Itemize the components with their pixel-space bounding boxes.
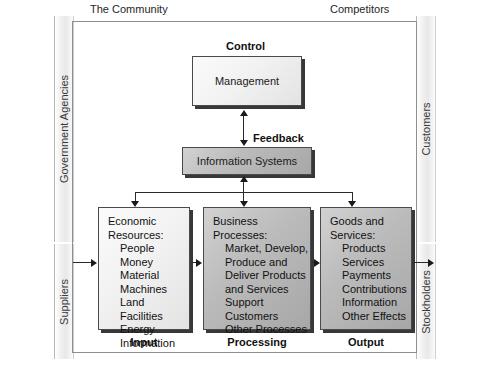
input-item: Machines — [108, 283, 189, 297]
feedback-connector-line — [243, 115, 244, 141]
input-item: Money — [108, 256, 189, 270]
environment-label-suppliers: Suppliers — [58, 279, 70, 325]
input-caption: Input — [98, 336, 190, 348]
feedback-arrowhead-down — [240, 140, 248, 146]
environment-band-suppliers: Suppliers — [54, 244, 74, 359]
output-box: Goods and Services: Products Services Pa… — [320, 207, 412, 330]
output-item: Services — [330, 256, 411, 270]
output-item: Contributions — [330, 283, 411, 297]
management-box-label: Management — [193, 75, 301, 87]
input-item: Material — [108, 269, 189, 283]
output-to-environment-line — [413, 262, 429, 263]
processing-caption: Processing — [203, 336, 311, 348]
information-systems-box-label: Information Systems — [183, 155, 311, 167]
diagram-canvas: The Community Competitors Government Age… — [0, 0, 486, 372]
feedback-arrowhead-up — [240, 110, 248, 116]
input-item: Facilities — [108, 310, 189, 324]
input-box-heading-line-1: Economic — [108, 215, 189, 229]
environment-band-government-agencies: Government Agencies — [54, 16, 74, 242]
feedback-label: Feedback — [253, 132, 304, 144]
output-box-heading-line-1: Goods and — [330, 215, 411, 229]
environment-label-competitors: Competitors — [330, 3, 389, 15]
information-systems-box: Information Systems — [182, 147, 312, 175]
output-item: Payments — [330, 269, 411, 283]
output-item: Information — [330, 296, 411, 310]
input-item: Land — [108, 296, 189, 310]
environment-to-input-arrowhead — [91, 259, 97, 267]
environment-band-customers: Customers — [416, 16, 436, 242]
output-caption: Output — [320, 336, 412, 348]
environment-to-input-line — [73, 262, 92, 263]
processing-item: Produce and — [213, 256, 310, 270]
processing-box: Business Processes: Market, Develop, Pro… — [203, 207, 311, 330]
output-box-heading-line-2: Services: — [330, 229, 411, 243]
processing-to-is-arrowhead — [240, 176, 248, 182]
input-item: Energy — [108, 323, 189, 337]
processing-box-heading-line-2: Processes: — [213, 229, 310, 243]
environment-label-the-community: The Community — [90, 3, 168, 15]
input-box: Economic Resources: People Money Materia… — [98, 207, 190, 330]
processing-box-heading-line-1: Business — [213, 215, 310, 229]
management-box: Management — [192, 56, 302, 106]
output-to-environment-arrowhead — [428, 259, 434, 267]
input-to-processing-arrowhead — [196, 259, 202, 267]
environment-label-government-agencies: Government Agencies — [58, 75, 70, 183]
processing-item: Deliver Products — [213, 269, 310, 283]
input-box-heading-line-2: Resources: — [108, 229, 189, 243]
processing-item: Support Customers — [213, 296, 310, 323]
processing-item: and Services — [213, 283, 310, 297]
output-item: Other Effects — [330, 310, 411, 324]
output-item: Products — [330, 242, 411, 256]
environment-label-stockholders: Stockholders — [420, 270, 432, 334]
processing-to-output-arrowhead — [314, 259, 320, 267]
processing-item: Market, Develop, — [213, 242, 310, 256]
environment-label-customers: Customers — [420, 102, 432, 155]
control-heading: Control — [226, 40, 265, 52]
processing-item: Other Processes — [213, 323, 310, 337]
input-item: People — [108, 242, 189, 256]
